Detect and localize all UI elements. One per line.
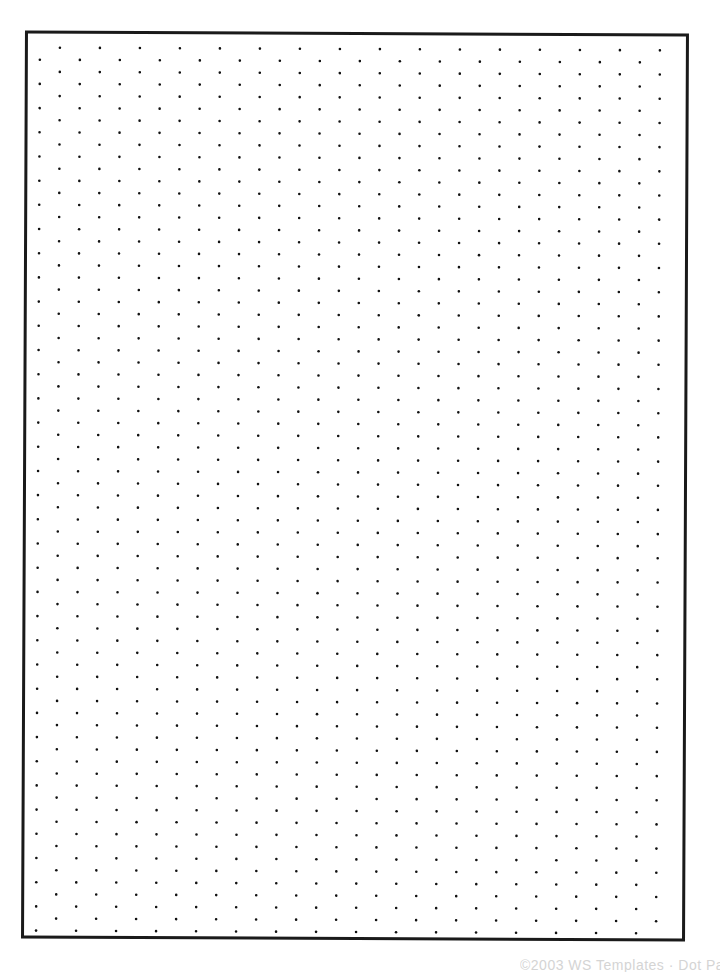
isometric-dot-grid (24, 34, 686, 939)
footer-copyright-text: ©2003 WS Templates · Dot Paper (520, 958, 720, 972)
grid-paper-frame (21, 31, 689, 942)
